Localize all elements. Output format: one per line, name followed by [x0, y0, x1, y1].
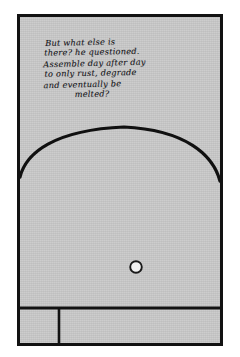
caption-line-6: melted? — [45, 87, 205, 100]
caption-text-block: But what else is there? he questioned. A… — [44, 35, 205, 99]
porthole-circle — [130, 261, 142, 273]
comic-panel: But what else is there? he questioned. A… — [17, 14, 223, 346]
arch-dome-outline — [20, 127, 220, 181]
comic-page: But what else is there? he questioned. A… — [0, 0, 240, 357]
